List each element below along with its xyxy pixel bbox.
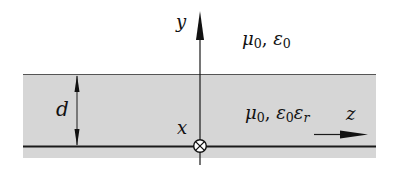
eps-subscript: 0 xyxy=(286,110,294,125)
eps-symbol: ε xyxy=(273,28,283,49)
mu-subscript: 0 xyxy=(254,36,262,51)
slab-material-label: μ0, ε0εr xyxy=(245,104,310,125)
mu-subscript: 0 xyxy=(257,110,265,125)
y-axis-arrowhead-icon xyxy=(196,11,204,40)
diagram-graphics xyxy=(0,0,396,173)
dimension-label: d xyxy=(56,99,69,119)
mu-symbol: μ xyxy=(245,102,257,123)
diagram-canvas: y z x d μ0, ε0 μ0, ε0εr xyxy=(0,0,396,173)
x-axis-label: x xyxy=(177,119,187,137)
separator: , xyxy=(262,28,273,49)
upper-region-material-label: μ0, ε0 xyxy=(242,30,291,51)
y-axis-label: y xyxy=(176,13,186,31)
separator: , xyxy=(265,102,276,123)
z-axis-label: z xyxy=(346,105,355,123)
eps-symbol: ε xyxy=(276,102,286,123)
eps-relative-symbol: ε xyxy=(294,102,304,123)
eps-relative-subscript: r xyxy=(304,110,310,125)
mu-symbol: μ xyxy=(242,28,254,49)
x-axis-into-page-icon xyxy=(194,140,207,153)
eps-subscript: 0 xyxy=(283,36,291,51)
